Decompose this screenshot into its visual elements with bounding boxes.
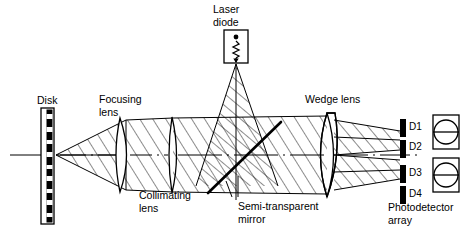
label-collimating-lens-line1: Collimating: [139, 189, 191, 201]
label-d1: D1: [409, 121, 422, 132]
label-focusing-lens-line1: Focusing: [99, 93, 142, 105]
detector-bar-d2: [400, 140, 406, 158]
spot-box-lower: [433, 158, 459, 192]
detector-bar-d3: [400, 165, 406, 183]
label-photodetector-array-line2: array: [388, 214, 413, 226]
label-semi-transparent-mirror-line2: mirror: [238, 213, 266, 225]
laser-diode: [224, 30, 248, 63]
label-d2: D2: [409, 141, 422, 152]
photodetector-array: [400, 119, 406, 204]
label-collimating-lens-line2: lens: [139, 202, 158, 214]
label-disk: Disk: [37, 94, 58, 106]
label-wedge-lens: Wedge lens: [305, 93, 360, 105]
label-semi-transparent-mirror-line1: Semi-transparent: [238, 200, 319, 212]
label-laser-diode-line2: diode: [213, 16, 239, 28]
disk-pits: [47, 114, 53, 217]
beam-to-detectors: [330, 112, 410, 200]
label-d3: D3: [409, 167, 422, 178]
detector-bar-d1: [400, 119, 406, 137]
spot-box-upper: [433, 115, 459, 149]
label-focusing-lens-line2: lens: [99, 106, 118, 118]
optical-diagram: Disk Focusing lens Collimating lens Lase…: [0, 0, 466, 235]
label-photodetector-array-line1: Photodetector: [388, 201, 454, 213]
label-laser-diode-line1: Laser: [213, 3, 240, 15]
figure-canvas: Disk Focusing lens Collimating lens Lase…: [0, 0, 466, 235]
disk: [41, 108, 54, 224]
label-d4: D4: [409, 188, 422, 199]
